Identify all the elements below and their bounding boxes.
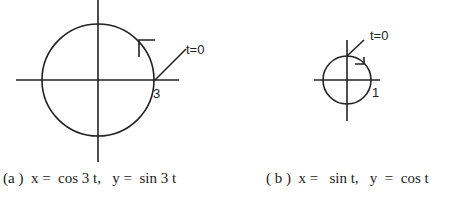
figure-b-caption: ( b ) x = sin t, y = cos t — [266, 170, 429, 187]
figure-b-radius-label: 1 — [372, 85, 379, 100]
figure-b — [314, 40, 380, 121]
figure-b-start-pointer — [347, 40, 364, 56]
figure-b-start-label: t=0 — [370, 28, 388, 43]
figure-a — [16, 0, 186, 162]
figure-a-radius-label: 3 — [153, 86, 160, 101]
figure-a-start-label: t=0 — [186, 42, 204, 57]
figure-a-caption: (a ) x = cos 3 t, y = sin 3 t — [3, 170, 176, 187]
figure-a-start-pointer — [155, 49, 186, 80]
